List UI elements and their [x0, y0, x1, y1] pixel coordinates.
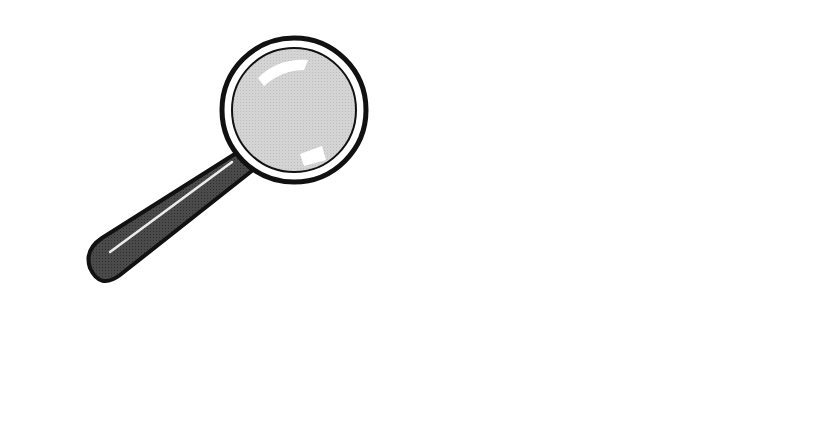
- magnifier-lens: [222, 38, 366, 182]
- magnifier-handle: [89, 152, 254, 281]
- number-line-zoom-diagram: [0, 0, 825, 426]
